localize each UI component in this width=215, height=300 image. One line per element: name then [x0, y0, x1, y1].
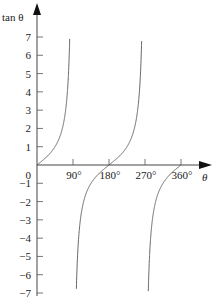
x-tick-label: 270° — [136, 169, 157, 181]
y-tick-label: −7 — [19, 287, 31, 299]
tan-curve-branch — [37, 39, 70, 165]
y-tick-label: 6 — [26, 49, 32, 61]
y-tick-label: 3 — [26, 104, 32, 116]
x-tick-label: 360° — [172, 169, 193, 181]
x-tick-label: 90° — [66, 169, 81, 181]
tan-curve-branch — [148, 165, 181, 291]
x-axis-label: θ — [202, 171, 208, 183]
y-tick-label: 4 — [26, 86, 32, 98]
y-tick-label: −3 — [19, 214, 31, 226]
y-tick-label: −6 — [19, 269, 31, 281]
y-tick-label: −5 — [19, 250, 31, 262]
y-tick-label: 5 — [26, 68, 32, 80]
x-tick-label: 180° — [100, 169, 121, 181]
y-tick-label: −1 — [19, 177, 31, 189]
y-tick-label: 7 — [26, 31, 32, 43]
x-axis-arrow-icon — [199, 161, 212, 169]
y-axis-label: tan θ — [2, 11, 23, 23]
x-ticks: 90°180°270°360° — [66, 159, 192, 181]
y-tick-label: −4 — [19, 232, 31, 244]
tan-graph: 76543210−1−2−3−4−5−6−7 90°180°270°360° t… — [0, 0, 215, 300]
y-axis-arrow-icon — [33, 3, 41, 15]
y-tick-label: 1 — [26, 141, 32, 153]
y-tick-label: −2 — [19, 196, 31, 208]
y-tick-label: 2 — [26, 122, 32, 134]
axes — [33, 3, 212, 296]
